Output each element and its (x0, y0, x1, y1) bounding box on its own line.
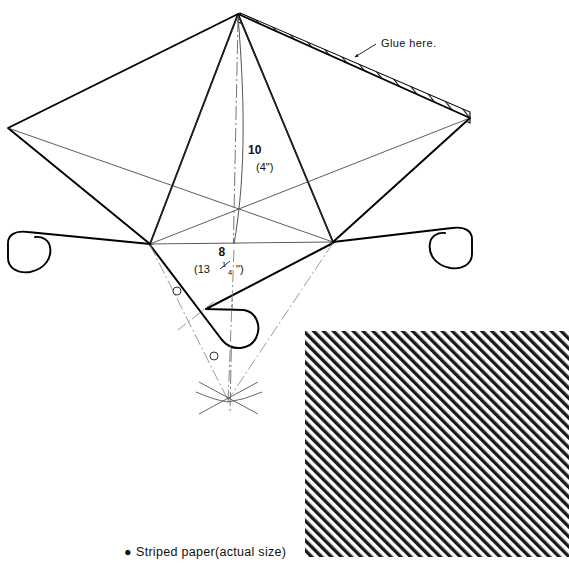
bridle-marker-upper (173, 287, 181, 295)
caption-bullet: ● (124, 545, 132, 559)
width-dimension-alt-prefix: (13 (194, 263, 210, 275)
kite-panel-upper-left (8, 14, 238, 244)
striped-paper-swatch (305, 331, 569, 557)
kite-pattern-drawing: 10 (4") 8 (13 1 4 ") Glue here. ● Stripe… (0, 0, 569, 566)
caption-text: Striped paper(actual size) (136, 545, 286, 559)
tail-left-wing (8, 232, 150, 273)
width-dimension-alt-suffix: ") (236, 263, 244, 275)
glue-here-label: Glue here. (381, 37, 436, 49)
centre-axis-dashdot (230, 18, 238, 412)
width-dimension-alt-frac-denominator: 4 (228, 268, 232, 277)
tail-right-wing (333, 228, 472, 269)
bridle-marker-lower (210, 352, 218, 360)
glue-leader-line (355, 44, 376, 57)
height-dimension-alt: (4") (256, 161, 273, 173)
diagram-page: 10 (4") 8 (13 1 4 ") Glue here. ● Stripe… (0, 0, 569, 566)
width-dimension-value: 8 (219, 245, 226, 259)
height-dimension-value: 10 (248, 143, 262, 157)
